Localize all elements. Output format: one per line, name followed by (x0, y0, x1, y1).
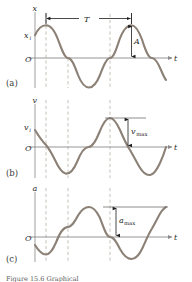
amax-subscript: max (124, 220, 135, 226)
guide-lines-panel-c (46, 188, 110, 262)
panel-c-origin-label: O (25, 234, 32, 243)
svg-text:i: i (29, 127, 31, 133)
panel-c-horizontal-axis-label: t (174, 233, 178, 242)
panel-a-position: T A x t O x i (a) (6, 4, 178, 88)
initial-position-label: x i (24, 31, 32, 41)
panel-a-label: (a) (6, 78, 18, 88)
panel-c-vertical-axis-label: a (33, 184, 38, 193)
panel-c-acceleration: a max a t O (c) (6, 184, 178, 264)
shm-graphs-figure: T A x t O x i (a) v (0, 0, 192, 282)
position-curve (35, 25, 166, 87)
panel-b-horizontal-axis-label: t (174, 143, 178, 152)
period-measure-T: T (46, 13, 132, 24)
panel-a-origin-label: O (25, 55, 32, 64)
acceleration-curve (35, 207, 166, 259)
guide-lines-panel-b (46, 100, 110, 178)
velocity-curve (35, 118, 166, 175)
panel-a-vertical-axis-label: x (33, 4, 38, 13)
vmax-subscript: max (136, 131, 147, 137)
period-label: T (84, 15, 90, 24)
panel-b-velocity: v max v t O v i (b) (6, 96, 178, 178)
panel-a-horizontal-axis-label: t (174, 54, 178, 63)
svg-text:i: i (30, 35, 32, 41)
amplitude-label: A (133, 37, 140, 46)
figure-caption: Figure 15.6 Graphical (6, 275, 79, 282)
panel-c-label: (c) (6, 254, 17, 264)
panel-b-origin-label: O (25, 144, 32, 153)
svg-text:x: x (24, 31, 29, 40)
initial-velocity-label: v i (24, 123, 31, 133)
panel-b-vertical-axis-label: v (33, 96, 38, 105)
panel-b-label: (b) (6, 168, 18, 178)
amax-measure: a max (103, 207, 168, 236)
